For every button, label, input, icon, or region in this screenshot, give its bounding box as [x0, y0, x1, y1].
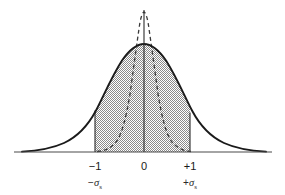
sigma-label-minus: −σs	[88, 177, 102, 191]
tick-label-plus-one: +1	[184, 160, 197, 172]
distribution-plot: −1 0 +1 −σs +σs	[0, 0, 285, 195]
tick-label-zero: 0	[141, 160, 147, 172]
sigma-plus-subscript: s	[194, 183, 197, 191]
normal-distribution-figure: −1 0 +1 −σs +σs	[0, 0, 285, 195]
sigma-label-plus: +σs	[183, 177, 197, 191]
sigma-minus-subscript: s	[99, 183, 102, 191]
tick-label-minus-one: −1	[89, 160, 102, 172]
